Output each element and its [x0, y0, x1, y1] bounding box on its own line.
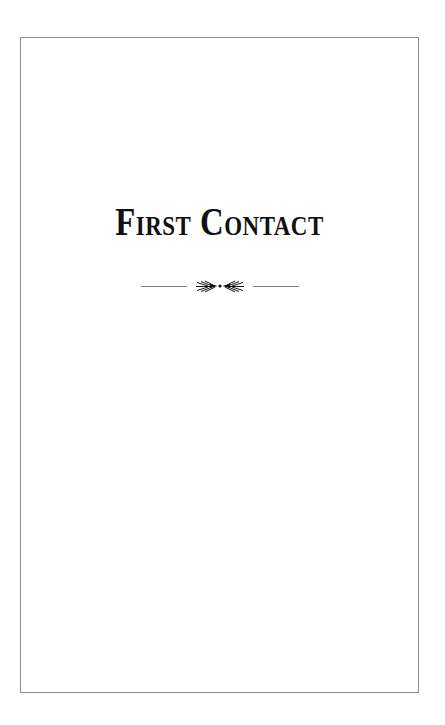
page-title: First Contact: [57, 202, 383, 242]
page-border: [20, 37, 419, 693]
fleuron-divider: [21, 276, 418, 296]
divider-rule-left: [141, 286, 187, 287]
divider-rule-right: [253, 286, 299, 287]
fleuron-icon: [195, 278, 245, 294]
book-page: First Contact: [0, 0, 445, 725]
